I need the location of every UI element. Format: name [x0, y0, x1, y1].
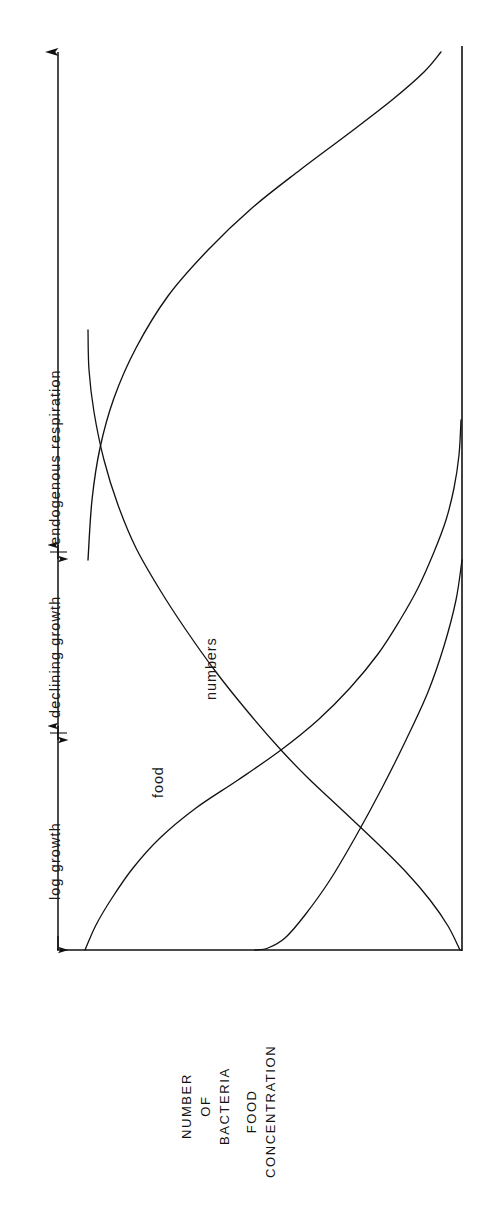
axis-title-food-concentration: FOOD CONCENTRATION: [243, 1045, 281, 1178]
axis-title-number-of-bacteria: NUMBER OF BACTERIA: [178, 1067, 235, 1145]
axis-title-line: CONCENTRATION: [262, 1045, 281, 1178]
axis-title-line: FOOD: [243, 1045, 262, 1178]
curve-numbers-tail-rendered: [88, 52, 441, 560]
axis-title-line: OF: [197, 1067, 216, 1145]
axis-title-line: NUMBER: [178, 1067, 197, 1145]
axis-title-line: BACTERIA: [216, 1067, 235, 1145]
growth-phase-figure: log growth declining growth endogenous r…: [0, 0, 484, 1206]
plot-canvas-overlay: [0, 0, 484, 1206]
curve-food-rendered: [88, 330, 460, 950]
